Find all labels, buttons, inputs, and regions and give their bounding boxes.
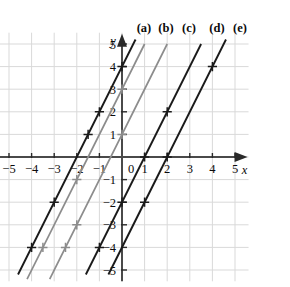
- series-label-b: (b): [158, 21, 173, 35]
- y-tick-label: −3: [103, 218, 116, 232]
- y-axis-label: y: [108, 34, 116, 48]
- y-tick-label: −1: [103, 173, 116, 187]
- series-label-e: (e): [233, 21, 247, 35]
- x-tick-label: 5: [232, 162, 238, 176]
- x-tick-label: −4: [25, 162, 39, 176]
- y-tick-label: −5: [103, 264, 116, 278]
- y-tick-label: 4: [110, 60, 117, 74]
- origin-label: 0: [128, 162, 134, 176]
- graph-figure: −5−4−3−2−1012345−5−4−3−2−112345xy(a)(b)(…: [0, 0, 290, 287]
- y-tick-label: 1: [110, 128, 116, 142]
- x-tick-label: 4: [209, 162, 216, 176]
- y-tick-label: −4: [103, 241, 117, 255]
- x-tick-label: −5: [2, 162, 15, 176]
- y-tick-label: −2: [103, 196, 116, 210]
- x-tick-label: 1: [141, 162, 147, 176]
- series-label-a: (a): [137, 21, 152, 35]
- x-tick-label: −3: [48, 162, 61, 176]
- x-tick-label: 2: [164, 162, 170, 176]
- coordinate-plane: −5−4−3−2−1012345−5−4−3−2−112345xy(a)(b)(…: [0, 0, 290, 287]
- x-axis-label: x: [241, 163, 248, 177]
- x-tick-label: 3: [187, 162, 193, 176]
- series-label-d: (d): [209, 21, 224, 35]
- series-label-c: (c): [182, 21, 196, 35]
